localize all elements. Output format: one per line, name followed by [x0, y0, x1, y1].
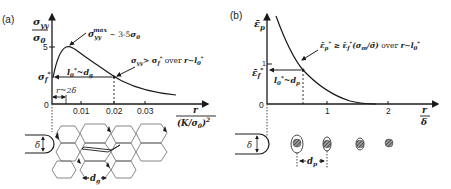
figure: (a) σyy σ0 5 σf* 0 0.01 0.02 0.03 r (K/σ…: [0, 0, 451, 189]
panel-b: (b) ε̄p 1 ε̄f* 0 1 2 r δ l0*~dp ε̄p* ≥ ε…: [230, 10, 438, 168]
svg-text:(K/σ0)2: (K/σ0)2: [177, 116, 210, 129]
delta-label-a: δ: [35, 140, 40, 150]
delta-label-b: δ: [247, 140, 252, 150]
particles: [291, 135, 393, 153]
x-axis-label: r (K/σ0)2: [176, 105, 216, 129]
crack-notch-b: δ: [235, 134, 269, 154]
blunting-label: r~2δ: [56, 86, 77, 95]
criterion-annotation-b: ε̄p* ≥ ε̄f*(σm/σ̄) over r~l0*: [320, 40, 420, 52]
y-tick-eps-f: ε̄f*: [252, 66, 263, 80]
y-axis-label: σyy σ0: [32, 16, 49, 45]
y-tick-sigma-f: σf*: [38, 70, 51, 84]
svg-text:δ: δ: [420, 117, 427, 127]
svg-text:r: r: [193, 105, 199, 115]
panel-a-label: (a): [2, 14, 14, 25]
y-tick-0: 0: [44, 100, 49, 110]
y-tick-0-b: 0: [259, 100, 264, 110]
x-axis-label-b: r δ: [420, 105, 430, 127]
panel-a: (a) σyy σ0 5 σf* 0 0.01 0.02 0.03 r (K/σ…: [2, 14, 216, 185]
strain-curve: [276, 16, 376, 104]
y-tick-5: 5: [43, 42, 48, 52]
criterion-annotation-a: σyy> σf* over r~l0*: [131, 55, 204, 67]
x-tick-0.02: 0.02: [106, 106, 123, 116]
peak-annotation: σyymax ~ 3-5σ0: [88, 26, 140, 41]
svg-text:σyy: σyy: [33, 16, 49, 30]
length-l0-dp: l0*~dp: [274, 75, 300, 87]
x-tick-1: 1: [325, 106, 330, 116]
x-tick-2: 2: [386, 106, 391, 116]
x-tick-0.03: 0.03: [137, 106, 154, 116]
crack-notch-a: δ: [25, 135, 54, 153]
panel-b-label: (b): [230, 10, 242, 21]
y-axis-label-b: ε̄p: [254, 18, 265, 32]
x-tick-0.01: 0.01: [73, 106, 90, 116]
svg-text:r: r: [422, 105, 428, 115]
